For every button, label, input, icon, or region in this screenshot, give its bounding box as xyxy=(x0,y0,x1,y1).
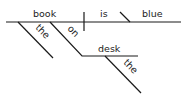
complement-divider xyxy=(120,12,130,22)
article-the-2-line xyxy=(105,56,141,93)
article-word-1: the xyxy=(34,22,53,41)
prep-object-word: desk xyxy=(98,43,121,54)
preposition-word: on xyxy=(66,23,82,39)
sentence-diagram: book is blue desk the on the xyxy=(0,0,185,101)
subject-word: book xyxy=(33,8,57,19)
article-word-2: the xyxy=(122,57,141,76)
preposition-on-line xyxy=(50,22,138,56)
verb-word: is xyxy=(100,8,108,19)
complement-word: blue xyxy=(142,8,163,19)
